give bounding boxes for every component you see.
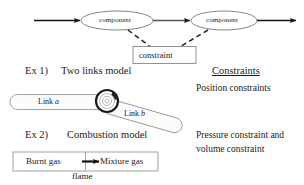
component-node-1-label: component [99, 17, 131, 24]
pressure-constraints-text-line1: Pressure constraint and [196, 131, 284, 141]
constraint-box-label: constraint [139, 51, 173, 60]
link-a-label: Link a [38, 98, 59, 106]
burnt-gas-label: Burnt gas [26, 157, 61, 166]
example-1-title: Two links model [61, 66, 131, 77]
example-2-title: Combustion model [67, 130, 147, 141]
revolute-joint-icon [96, 90, 118, 112]
example-2-number: Ex 2) [25, 130, 48, 141]
connector-right [178, 30, 208, 48]
diagram-canvas: component component constraint Ex 1) Two… [0, 0, 304, 185]
constraints-heading: Constraints [212, 66, 260, 77]
component-node-2-label: component [206, 17, 238, 24]
position-constraints-text: Position constraints [196, 84, 271, 94]
connector-left [128, 30, 152, 48]
flame-caption: flame [72, 172, 93, 181]
mixture-gas-label: Mixture gas [100, 157, 143, 166]
link-a-word: Link [38, 97, 53, 106]
example-1-number: Ex 1) [25, 66, 48, 77]
pressure-constraints-text-line2: volume constraint [196, 145, 264, 155]
link-b-label: Link b [124, 110, 145, 118]
link-b-word: Link [124, 109, 139, 118]
link-b-italic: b [141, 109, 145, 118]
link-a-italic: a [55, 97, 59, 106]
